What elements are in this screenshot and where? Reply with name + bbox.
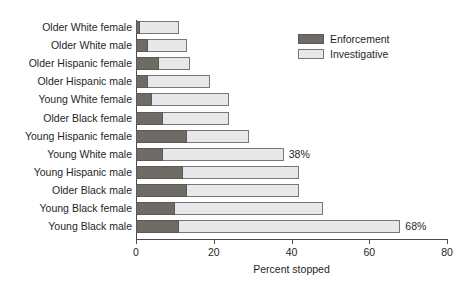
bar-row	[136, 75, 210, 88]
bar-segment-investigative	[148, 75, 210, 88]
category-label-text: Older Hispanic male	[37, 75, 132, 88]
category-label: Older White female	[0, 21, 132, 34]
x-axis-tick-label: 0	[116, 246, 156, 258]
bar-segment-investigative	[159, 57, 190, 70]
bar-segment-investigative	[163, 148, 284, 161]
bar-segment-investigative	[152, 93, 230, 106]
category-label-text: Older White female	[42, 21, 132, 34]
bar-row	[136, 220, 400, 233]
bar-segment-enforcement	[136, 148, 163, 161]
legend-label: Investigative	[330, 48, 388, 60]
bar-segment-investigative	[187, 130, 249, 143]
category-label: Older Hispanic male	[0, 75, 132, 88]
x-axis-tick	[136, 239, 137, 244]
bar-segment-enforcement	[136, 166, 183, 179]
bar-segment-investigative	[175, 202, 323, 215]
category-label: Young Hispanic male	[0, 166, 132, 179]
chart-legend: EnforcementInvestigative	[298, 33, 390, 60]
x-axis-tick-label: 80	[427, 246, 464, 258]
bar-segment-enforcement	[136, 112, 163, 125]
bar-row	[136, 166, 299, 179]
category-label-text: Young Black female	[40, 202, 132, 215]
x-axis-tick	[214, 239, 215, 244]
category-label-text: Older White male	[51, 39, 132, 52]
category-label: Young Black female	[0, 202, 132, 215]
category-label-text: Young White male	[47, 148, 132, 161]
legend-item: Investigative	[298, 48, 390, 60]
bar-segment-investigative	[179, 220, 401, 233]
category-label: Older Hispanic female	[0, 57, 132, 70]
category-label: Older Black male	[0, 184, 132, 197]
x-axis-title: Percent stopped	[136, 263, 447, 275]
x-axis-tick	[369, 239, 370, 244]
bar-value-annotation: 38%	[289, 148, 310, 161]
category-label: Young Hispanic female	[0, 130, 132, 143]
x-axis-tick	[447, 239, 448, 244]
category-label: Young White male	[0, 148, 132, 161]
bar-segment-enforcement	[136, 220, 179, 233]
category-label: Older White male	[0, 39, 132, 52]
bar-row	[136, 202, 323, 215]
category-label-text: Older Black female	[43, 112, 132, 125]
bar-row	[136, 184, 299, 197]
bar-segment-enforcement	[136, 184, 187, 197]
bar-segment-enforcement	[136, 39, 148, 52]
category-label: Young Black male	[0, 220, 132, 233]
category-label-text: Older Hispanic female	[29, 57, 132, 70]
category-label: Young White female	[0, 93, 132, 106]
legend-swatch-investigative	[298, 49, 324, 59]
x-axis-tick-label: 40	[272, 246, 312, 258]
x-axis-tick	[292, 239, 293, 244]
bar-segment-enforcement	[136, 57, 159, 70]
category-label: Older Black female	[0, 112, 132, 125]
category-label-text: Older Black male	[52, 184, 132, 197]
bar-chart: 38%68% Older White femaleOlder White mal…	[0, 0, 464, 293]
bar-row	[136, 112, 229, 125]
bar-segment-enforcement	[136, 130, 187, 143]
bar-row	[136, 57, 190, 70]
bar-row	[136, 93, 229, 106]
category-label-text: Young Hispanic female	[25, 130, 132, 143]
bar-segment-investigative	[187, 184, 300, 197]
bar-segment-investigative	[140, 21, 179, 34]
bar-row	[136, 130, 249, 143]
bar-segment-enforcement	[136, 75, 148, 88]
bar-segment-investigative	[183, 166, 300, 179]
x-axis-tick-label: 20	[194, 246, 234, 258]
bar-value-annotation: 68%	[405, 220, 426, 233]
category-label-text: Young Hispanic male	[34, 166, 132, 179]
legend-swatch-enforcement	[298, 34, 324, 44]
bar-segment-investigative	[163, 112, 229, 125]
bar-segment-investigative	[148, 39, 187, 52]
x-axis-tick-label: 60	[349, 246, 389, 258]
category-label-text: Young White female	[38, 93, 132, 106]
bar-row	[136, 39, 187, 52]
bar-segment-enforcement	[136, 93, 152, 106]
legend-label: Enforcement	[330, 33, 390, 45]
bar-row	[136, 148, 284, 161]
legend-item: Enforcement	[298, 33, 390, 45]
category-label-text: Young Black male	[48, 220, 132, 233]
bar-row	[136, 21, 179, 34]
bar-segment-enforcement	[136, 202, 175, 215]
